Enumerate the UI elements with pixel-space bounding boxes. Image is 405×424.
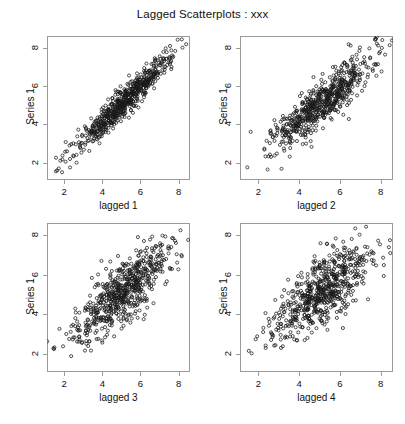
scatter-points-layer	[47, 36, 190, 180]
lagged-scatterplot-figure: Lagged Scatterplots : xxx 24682468Series…	[0, 0, 405, 424]
scatter-panel-lagged-4: 24682468Series 1lagged 4	[240, 223, 393, 372]
y-tick-mark	[236, 163, 240, 164]
y-tick-mark	[43, 275, 47, 276]
x-tick-label: 8	[378, 186, 383, 197]
x-tick-mark	[64, 372, 65, 376]
x-tick-label: 8	[176, 186, 181, 197]
y-axis-label: Series 1	[218, 72, 229, 142]
y-tick-mark	[236, 235, 240, 236]
y-tick-mark	[43, 163, 47, 164]
scatter-points-layer	[240, 36, 393, 180]
x-tick-mark	[140, 372, 141, 376]
x-tick-label: 8	[378, 378, 383, 389]
x-tick-mark	[381, 180, 382, 184]
y-tick-mark	[236, 48, 240, 49]
x-axis-label: lagged 3	[99, 392, 137, 403]
x-tick-label: 4	[100, 186, 105, 197]
x-tick-label: 6	[337, 378, 342, 389]
x-tick-mark	[140, 180, 141, 184]
y-axis-label: Series 1	[218, 261, 229, 331]
x-tick-mark	[102, 372, 103, 376]
y-tick-mark	[43, 235, 47, 236]
y-tick-label: 8	[29, 41, 40, 53]
scatter-panel-lagged-3: 24682468Series 1lagged 3	[47, 223, 190, 372]
y-tick-mark	[236, 124, 240, 125]
page-title: Lagged Scatterplots : xxx	[0, 8, 405, 20]
x-tick-label: 2	[256, 378, 261, 389]
x-tick-mark	[381, 372, 382, 376]
y-axis-label: Series 1	[25, 261, 36, 331]
x-tick-label: 8	[176, 378, 181, 389]
y-axis-label: Series 1	[25, 72, 36, 142]
x-tick-label: 4	[297, 378, 302, 389]
y-tick-label: 2	[29, 348, 40, 360]
scatter-points-layer	[240, 223, 393, 372]
y-tick-mark	[236, 275, 240, 276]
y-tick-label: 8	[222, 228, 233, 240]
scatter-panel-lagged-2: 24682468Series 1lagged 2	[240, 36, 393, 180]
y-tick-mark	[236, 86, 240, 87]
y-tick-mark	[43, 86, 47, 87]
y-tick-mark	[236, 314, 240, 315]
scatter-points-layer	[47, 223, 190, 372]
x-tick-label: 2	[62, 378, 67, 389]
x-tick-mark	[340, 180, 341, 184]
y-tick-mark	[43, 124, 47, 125]
y-tick-label: 8	[222, 41, 233, 53]
y-tick-mark	[43, 48, 47, 49]
x-tick-label: 6	[138, 378, 143, 389]
x-tick-mark	[299, 180, 300, 184]
y-tick-label: 2	[222, 156, 233, 168]
scatter-panel-lagged-1: 24682468Series 1lagged 1	[47, 36, 190, 180]
x-axis-label: lagged 4	[297, 392, 335, 403]
x-tick-label: 6	[337, 186, 342, 197]
y-tick-mark	[236, 354, 240, 355]
x-tick-mark	[179, 372, 180, 376]
x-axis-label: lagged 1	[99, 200, 137, 211]
y-tick-label: 8	[29, 228, 40, 240]
x-tick-mark	[258, 372, 259, 376]
x-tick-mark	[299, 372, 300, 376]
y-tick-label: 2	[29, 156, 40, 168]
x-tick-label: 6	[138, 186, 143, 197]
x-tick-mark	[64, 180, 65, 184]
x-tick-label: 2	[256, 186, 261, 197]
x-tick-label: 2	[62, 186, 67, 197]
x-tick-mark	[340, 372, 341, 376]
x-tick-label: 4	[100, 378, 105, 389]
y-tick-mark	[43, 354, 47, 355]
x-tick-mark	[102, 180, 103, 184]
y-tick-label: 2	[222, 348, 233, 360]
x-tick-label: 4	[297, 186, 302, 197]
x-tick-mark	[258, 180, 259, 184]
x-axis-label: lagged 2	[297, 200, 335, 211]
y-tick-mark	[43, 314, 47, 315]
x-tick-mark	[179, 180, 180, 184]
